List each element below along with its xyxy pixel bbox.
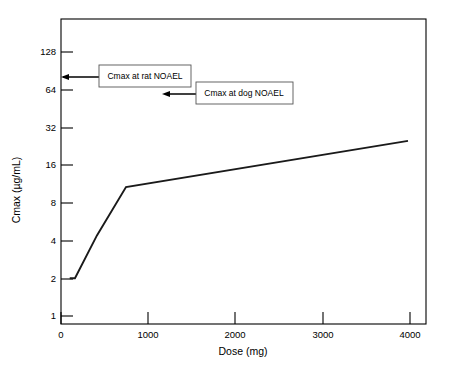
- x-axis-tick-labels: 0 1000 2000 3000 4000: [58, 329, 420, 340]
- rat-annotation-arrow-icon: [61, 74, 69, 80]
- y-tick-label-2: 2: [51, 273, 56, 284]
- cmax-series-line: [70, 141, 408, 278]
- x-tick-label-1000: 1000: [137, 329, 158, 340]
- chart-container: 128 64 32 16 8 4 2 1 0 1000 2000 3000 40…: [0, 0, 458, 370]
- x-tick-label-0: 0: [58, 329, 63, 340]
- x-tick-label-3000: 3000: [312, 329, 333, 340]
- rat-annotation-label: Cmax at rat NOAEL: [107, 71, 182, 81]
- y-tick-label-64: 64: [45, 84, 56, 95]
- dog-annotation-label: Cmax at dog NOAEL: [204, 88, 284, 98]
- x-tick-label-2000: 2000: [224, 329, 245, 340]
- x-axis-title: Dose (mg): [218, 345, 267, 357]
- dog-annotation-arrow-icon: [162, 91, 170, 97]
- y-tick-label-16: 16: [45, 159, 56, 170]
- y-tick-label-1: 1: [51, 310, 56, 321]
- y-axis-tick-labels: 128 64 32 16 8 4 2 1: [40, 46, 56, 321]
- cmax-dose-line-chart: 128 64 32 16 8 4 2 1 0 1000 2000 3000 40…: [0, 0, 458, 370]
- y-tick-label-32: 32: [45, 122, 56, 133]
- y-tick-label-128: 128: [40, 46, 56, 57]
- y-tick-label-4: 4: [51, 235, 56, 246]
- y-axis-title: Cmax (µg/mL): [10, 157, 22, 224]
- y-axis-ticks: [61, 52, 73, 316]
- x-tick-label-4000: 4000: [399, 329, 420, 340]
- annotation-rat-noael[interactable]: Cmax at rat NOAEL: [61, 65, 191, 87]
- y-tick-label-8: 8: [51, 197, 56, 208]
- x-axis-ticks: [61, 312, 410, 324]
